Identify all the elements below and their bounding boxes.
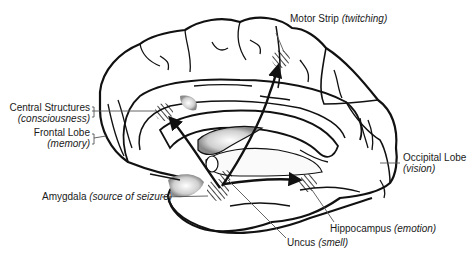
label-name: Hippocampus xyxy=(330,223,391,234)
label-name: Frontal Lobe xyxy=(0,127,90,138)
label-name: Amygdala xyxy=(42,191,86,202)
label-hippocampus: Hippocampus (emotion) xyxy=(330,223,436,234)
hippocampus-hatch xyxy=(299,174,317,192)
label-function: (memory) xyxy=(0,138,90,149)
motor-strip-hatch xyxy=(272,50,290,68)
label-function: (source of seizure) xyxy=(89,191,172,202)
label-frontal-lobe: Frontal Lobe (memory) xyxy=(0,127,90,149)
label-function: (emotion) xyxy=(394,223,436,234)
label-function: (consciousness) xyxy=(0,113,90,124)
label-name: Motor Strip xyxy=(290,13,339,24)
brain-diagram: Motor Strip (twitching) Central Structur… xyxy=(0,0,476,260)
label-occipital-lobe: Occipital Lobe (vision) xyxy=(403,152,466,174)
label-central-structures: Central Structures (consciousness) xyxy=(0,102,90,124)
label-name: Central Structures xyxy=(0,102,90,113)
label-function: (smell) xyxy=(318,237,348,248)
label-function: (twitching) xyxy=(342,13,388,24)
label-amygdala: Amygdala (source of seizure) xyxy=(42,191,172,202)
label-name: Uncus xyxy=(287,237,315,248)
label-motor-strip: Motor Strip (twitching) xyxy=(290,13,387,24)
label-uncus: Uncus (smell) xyxy=(287,237,348,248)
label-function: (vision) xyxy=(403,163,466,174)
label-name: Occipital Lobe xyxy=(403,152,466,163)
